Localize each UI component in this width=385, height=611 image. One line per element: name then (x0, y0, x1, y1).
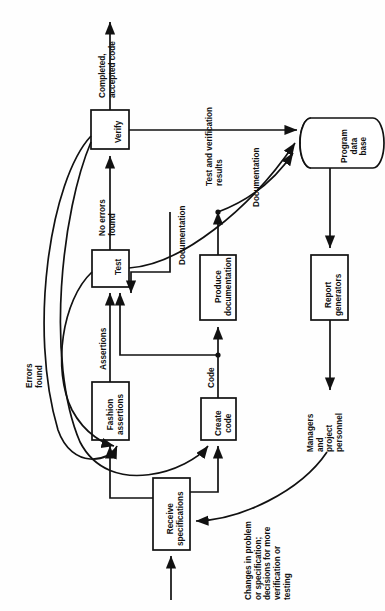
edge-changes-to-receive (196, 452, 327, 521)
node-verify-label: Verify (114, 121, 124, 143)
node-report-generators-label: Reportgenerators (324, 274, 343, 316)
edge-receive-to-create (190, 446, 218, 492)
node-test-label: Test (114, 259, 124, 275)
edge-label-errors-found: Errorsfound (25, 363, 44, 388)
edge-label-documentation-test: Documentation (178, 205, 188, 265)
node-create-code-label: Createcode (214, 411, 233, 437)
edge-documentation-to-test (131, 212, 170, 293)
diagram-canvas: Verify Test Fashionassertions Createcode… (0, 0, 385, 611)
edge-label-test-and-verification-results: Test and verificationresults (205, 107, 224, 186)
node-receive-specifications-label: Receivespecifications (166, 491, 185, 546)
edge-label-documentation-database: Documentation (252, 147, 262, 207)
edge-label-completed-accepted-code: Completed,accepted code (98, 41, 117, 98)
node-produce-documentation-label: Producedocumentation (214, 257, 233, 316)
edge-label-no-errors-found: No errorsfound (98, 199, 117, 236)
node-fashion-assertions-label: Fashionassertions (106, 394, 125, 435)
node-program-database-label: Programdatabase (340, 129, 369, 163)
edge-label-managers-and-project-personnel: Managersandprojectpersonnel (306, 413, 345, 452)
edge-label-code: Code (207, 368, 217, 388)
junction-code (215, 352, 220, 357)
edge-label-assertions: Assertions (99, 328, 109, 370)
edge-label-changes-in-problem: Changes in problemor specification;decis… (244, 521, 292, 600)
